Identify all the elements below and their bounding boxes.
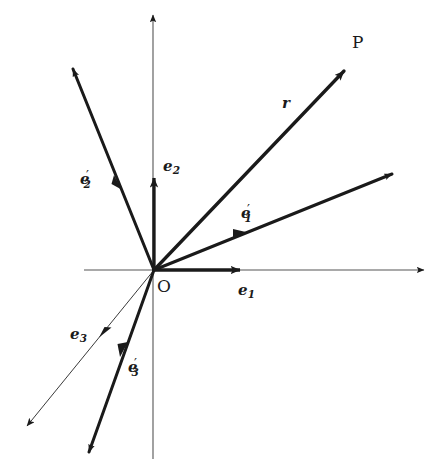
label-vector-e1: e1 bbox=[238, 283, 255, 300]
label-vector-r: r bbox=[282, 96, 290, 111]
diagram-canvas bbox=[0, 0, 442, 465]
label-e1-base: e bbox=[238, 281, 248, 299]
label-origin: O bbox=[157, 278, 171, 295]
label-point-p: P bbox=[352, 34, 363, 51]
label-vector-e3-prime: e′3 bbox=[128, 357, 139, 377]
vector-r bbox=[154, 71, 344, 270]
vector-e1-prime-ray bbox=[154, 174, 392, 270]
label-e2-base: e bbox=[163, 157, 173, 175]
label-e3-prime-subscript: 3 bbox=[132, 366, 139, 378]
label-e2-prime-subscript: 2 bbox=[84, 178, 91, 190]
label-e1-subscript: 1 bbox=[248, 288, 255, 300]
label-vector-e3: e3 bbox=[70, 327, 87, 344]
label-e2-subscript: 2 bbox=[173, 164, 180, 176]
vector-e3-mid-arrowhead bbox=[99, 327, 112, 338]
vector-diagram-figure: O P r e1 e2 e3 e′1 e′2 e′3 bbox=[0, 0, 442, 465]
label-e3-base: e bbox=[70, 325, 80, 343]
vector-e3-prime-ray bbox=[89, 270, 154, 452]
label-e1-prime-subscript: 1 bbox=[245, 212, 252, 224]
vector-e3-ray bbox=[27, 270, 154, 426]
label-vector-e2: e2 bbox=[163, 159, 180, 176]
label-vector-e2-prime: e′2 bbox=[80, 169, 91, 189]
label-vector-e1-prime: e′1 bbox=[241, 203, 252, 223]
label-e3-subscript: 3 bbox=[80, 332, 87, 344]
